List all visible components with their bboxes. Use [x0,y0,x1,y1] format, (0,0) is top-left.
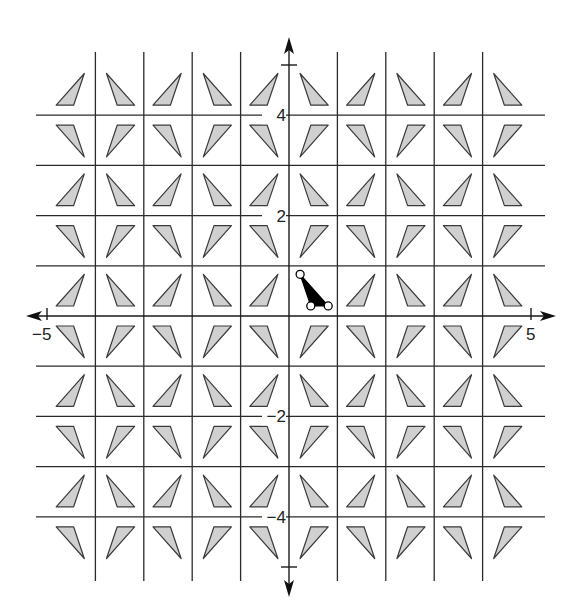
reflected-triangle [153,74,181,106]
reflected-triangle [347,274,375,306]
reflected-triangle [443,527,471,559]
reflected-triangle [250,274,278,306]
reflected-triangle [107,475,135,507]
reflected-triangle [250,74,278,106]
reflected-triangle [250,426,278,458]
reflected-triangle [494,426,522,458]
reflected-triangle [250,125,278,157]
reflected-triangle [250,326,278,358]
reflected-triangle [56,426,84,458]
reflected-triangle [153,326,181,358]
reflected-triangle [107,375,135,407]
reflected-triangle [153,527,181,559]
reflected-triangle [250,174,278,206]
reflected-triangle [397,74,425,106]
reflected-triangle [300,475,328,507]
reflected-triangle [107,174,135,206]
reflected-triangle [494,74,522,106]
reflected-triangle [56,226,84,258]
reflected-triangle [443,326,471,358]
reflected-triangle [107,527,135,559]
reflected-triangle [203,274,231,306]
reflected-triangle [347,527,375,559]
reflected-triangle [397,426,425,458]
reflected-triangle [494,527,522,559]
reflected-triangle [397,475,425,507]
reflected-triangle [443,375,471,407]
reflected-triangle [443,174,471,206]
y-label-neg4: −4 [267,508,286,527]
reflected-triangle [203,326,231,358]
reflected-triangle [153,226,181,258]
reflected-triangle [300,74,328,106]
reflected-triangle [203,527,231,559]
reflected-triangle [56,125,84,157]
reflected-triangle [203,226,231,258]
reflected-triangle [443,125,471,157]
reflected-triangle [250,527,278,559]
reflected-triangle [300,174,328,206]
reflected-triangle [443,274,471,306]
reflected-triangle [203,475,231,507]
reflected-triangle [300,375,328,407]
reflected-triangle [300,125,328,157]
reflected-triangle [56,174,84,206]
reflected-triangle [347,226,375,258]
reflected-triangle [494,226,522,258]
reflected-triangle [347,174,375,206]
axes [26,37,556,597]
reflected-triangle [153,274,181,306]
reflected-triangle [56,274,84,306]
reflected-triangle [203,174,231,206]
reflected-triangle [347,426,375,458]
reflected-triangle [347,74,375,106]
reflected-triangle [397,527,425,559]
y-label-neg2: −2 [267,407,286,426]
reflected-triangle [203,375,231,407]
reflected-triangle [107,74,135,106]
x-label-min: −5 [32,325,51,344]
reflected-triangle [443,426,471,458]
reflected-triangle [107,426,135,458]
reflected-triangle [153,475,181,507]
reflected-triangle [494,475,522,507]
reflected-triangle [494,125,522,157]
x-label-max: 5 [526,325,535,344]
reflected-triangle [443,74,471,106]
reflected-triangle [494,326,522,358]
reflected-triangle [443,475,471,507]
y-label-4: 4 [277,106,286,125]
reflected-triangle [250,226,278,258]
reflected-triangle [443,226,471,258]
reflected-triangle [203,426,231,458]
reflected-triangle [250,375,278,407]
vertex-marker [296,270,304,278]
reflected-triangle [300,226,328,258]
preimage-triangle-shape [300,274,328,306]
reflected-triangle [300,326,328,358]
reflected-triangle [203,74,231,106]
reflected-triangle [153,375,181,407]
reflected-triangle [203,125,231,157]
reflected-triangle [494,174,522,206]
reflected-triangle [397,125,425,157]
reflected-triangle [56,475,84,507]
reflected-triangle [397,226,425,258]
reflected-triangle [153,426,181,458]
preimage-triangle [296,270,332,310]
reflected-triangle [56,375,84,407]
reflected-triangle [153,125,181,157]
reflected-triangle [107,125,135,157]
reflected-triangle [494,274,522,306]
reflected-triangle [107,274,135,306]
reflected-triangle [107,226,135,258]
y-label-2: 2 [277,207,286,226]
reflected-triangle [347,125,375,157]
reflected-triangle [56,74,84,106]
reflected-triangle [494,375,522,407]
reflected-triangle [397,274,425,306]
reflected-triangle [300,527,328,559]
vertex-marker [324,302,332,310]
reflected-triangle [300,426,328,458]
reflected-triangle [397,174,425,206]
